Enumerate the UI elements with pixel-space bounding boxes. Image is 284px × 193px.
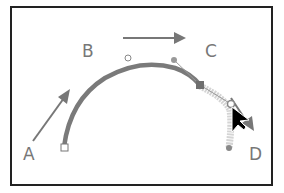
anchor-point-d[interactable] — [226, 145, 232, 151]
anchor-point-hover[interactable] — [228, 101, 235, 108]
point-label-d: D — [249, 146, 262, 163]
diagram-frame — [11, 7, 272, 185]
anchor-point-a[interactable] — [61, 144, 68, 151]
anchor-point-c[interactable] — [196, 81, 204, 89]
point-label-a: A — [23, 146, 35, 163]
anchor-point-b[interactable] — [125, 55, 131, 61]
diagram-canvas: A B C D — [0, 0, 284, 193]
point-label-c: C — [205, 43, 217, 60]
handle-point[interactable] — [171, 57, 177, 63]
point-label-b: B — [82, 43, 94, 60]
diagram-svg — [0, 0, 284, 193]
